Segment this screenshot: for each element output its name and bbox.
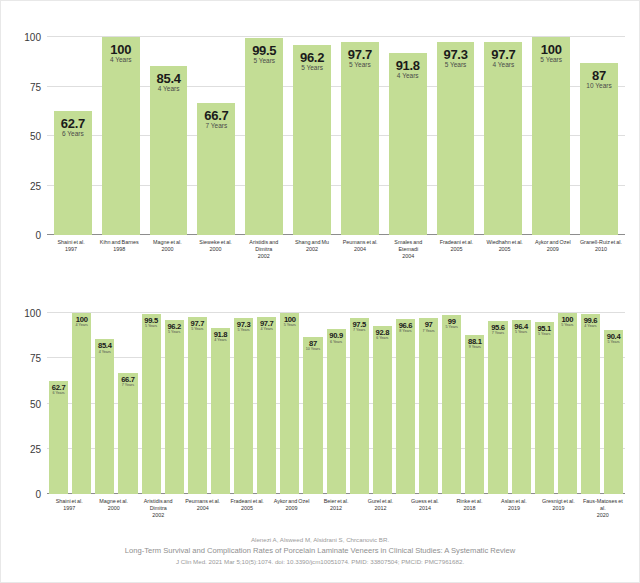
bar[interactable]: 1005 Years — [280, 313, 299, 494]
bar-slot: 91.84 Years — [384, 37, 432, 235]
bar-slot: 97.35 Years — [432, 37, 480, 235]
bar-data-label: 99.64 Years — [581, 317, 600, 329]
bar[interactable]: 62.76 Years — [49, 381, 68, 494]
bar[interactable]: 97.35 Years — [234, 318, 253, 494]
bar-followup-years: 4 Years — [72, 324, 91, 328]
bar-data-label: 96.25 Years — [293, 51, 331, 72]
bar-slot: 1005 Years — [556, 313, 579, 494]
x-axis-label: Gurel et al.2012 — [358, 498, 402, 518]
bar-data-label: 977 Years — [419, 321, 438, 333]
bar-value: 97.3 — [437, 48, 475, 61]
bar[interactable]: 85.44 Years — [95, 339, 114, 494]
bar[interactable]: 95.67 Years — [488, 321, 507, 494]
bar-followup-years: 5 Years — [341, 62, 379, 69]
bar[interactable]: 995 Years — [442, 315, 461, 494]
x-axis-label-study: Peumans et al. — [181, 498, 223, 505]
bar[interactable]: 96.25 Years — [293, 45, 331, 235]
x-axis-label: Beier et al.2012 — [314, 498, 358, 518]
x-axis-label-study: Sieweke et al. — [194, 239, 238, 246]
bar[interactable]: 8710 Years — [303, 337, 322, 494]
bar[interactable]: 85.44 Years — [150, 66, 188, 235]
bar-slot: 995 Years — [440, 313, 463, 494]
x-axis-label-study: Aslan et al. — [493, 498, 535, 505]
bar-slot: 92.86 Years — [371, 313, 394, 494]
bar-data-label: 97.57 Years — [350, 321, 369, 333]
bar[interactable]: 91.84 Years — [389, 53, 427, 235]
bar[interactable]: 99.64 Years — [581, 314, 600, 494]
bar-data-label: 66.77 Years — [118, 376, 137, 388]
bar[interactable]: 92.86 Years — [373, 326, 392, 494]
bar-value: 91.8 — [211, 331, 230, 339]
bar[interactable]: 97.75 Years — [188, 317, 207, 494]
bar[interactable]: 97.74 Years — [257, 317, 276, 494]
x-axis-label-study: Fradeani et al. — [434, 239, 478, 246]
x-axis-label-study: Magne et al. — [145, 239, 189, 246]
bar[interactable]: 97.75 Years — [341, 42, 379, 235]
bar[interactable]: 66.77 Years — [197, 103, 235, 235]
bar-followup-years: 4 Years — [257, 328, 276, 332]
bar[interactable]: 1004 Years — [72, 313, 91, 494]
bar[interactable]: 91.84 Years — [211, 328, 230, 494]
bar-followup-years: 6 Years — [327, 341, 346, 345]
bar-data-label: 1005 Years — [532, 43, 570, 64]
bar-slot: 96.25 Years — [163, 313, 186, 494]
bar-followup-years: 5 Years — [234, 329, 253, 333]
bar-slot: 99.55 Years — [140, 313, 163, 494]
bar-data-label: 99.55 Years — [142, 317, 161, 329]
bar[interactable]: 1005 Years — [532, 37, 570, 235]
bar-data-label: 88.19 Years — [465, 338, 484, 350]
bar-followup-years: 5 Years — [165, 331, 184, 335]
survival-rate-bar-chart-top: 0255075100 62.76 Years1004 Years85.44 Ye… — [47, 37, 625, 235]
bar[interactable]: 90.45 Years — [604, 330, 623, 494]
bar-value: 97 — [419, 321, 438, 329]
bar[interactable]: 1004 Years — [102, 37, 140, 235]
bar-value: 100 — [558, 316, 577, 324]
x-axis-label: Granell-Ruiz et al.2010 — [577, 239, 625, 259]
x-axis-label: Gresnigt et al.2019 — [536, 498, 580, 518]
bar[interactable]: 97.74 Years — [484, 42, 522, 235]
bar-followup-years: 8 Years — [396, 330, 415, 334]
y-tick-label: 0 — [35, 230, 47, 241]
x-axis-label-year: 2000 — [145, 246, 189, 253]
bar[interactable]: 62.76 Years — [54, 111, 92, 235]
bar-followup-years: 7 Years — [197, 123, 235, 130]
bar-data-label: 96.68 Years — [396, 322, 415, 334]
bar[interactable]: 99.55 Years — [142, 314, 161, 494]
bar-value: 99.5 — [245, 44, 283, 57]
bar[interactable]: 96.68 Years — [396, 319, 415, 494]
bar[interactable]: 1005 Years — [558, 313, 577, 494]
bar-slot: 1004 Years — [70, 313, 93, 494]
x-axis-label-year: 1998 — [97, 246, 141, 253]
y-tick-label: 75 — [30, 353, 47, 364]
bar[interactable]: 97.57 Years — [350, 318, 369, 494]
bar[interactable]: 90.96 Years — [327, 329, 346, 494]
x-axis-label-study: Kihn and Barnes — [97, 239, 141, 246]
bar[interactable]: 95.15 Years — [535, 322, 554, 494]
bar-followup-years: 7 Years — [118, 384, 137, 388]
bar-value: 100 — [102, 43, 140, 56]
bar[interactable]: 96.25 Years — [165, 320, 184, 494]
bar[interactable]: 99.55 Years — [245, 38, 283, 235]
x-axis-label-year: 2019 — [493, 505, 535, 512]
x-axis-label-study: Granell-Ruiz et al. — [579, 239, 623, 246]
bar-slot: 85.44 Years — [93, 313, 116, 494]
bar-followup-years: 5 Years — [558, 324, 577, 328]
bar-value: 100 — [532, 43, 570, 56]
bar[interactable]: 97.35 Years — [437, 42, 475, 235]
bar-data-label: 1004 Years — [102, 43, 140, 64]
x-axis-label-year: 2004 — [386, 253, 430, 260]
bar[interactable]: 977 Years — [419, 318, 438, 494]
bar[interactable]: 96.45 Years — [512, 320, 531, 494]
bar-slot: 85.44 Years — [145, 37, 193, 235]
plot-area-chart1: 0255075100 62.76 Years1004 Years85.44 Ye… — [47, 37, 625, 235]
bar-followup-years: 4 Years — [95, 351, 114, 355]
bar-data-label: 85.44 Years — [150, 72, 188, 93]
bar[interactable]: 88.19 Years — [465, 335, 484, 494]
bar[interactable]: 66.77 Years — [118, 373, 137, 494]
caption-authors: Alenezi A, Alsweed M, Alsidrani S, Chrca… — [1, 535, 639, 545]
bar-followup-years: 4 Years — [211, 339, 230, 343]
bar[interactable]: 8710 Years — [580, 63, 618, 235]
x-axis-label-study: Aristidis and Dimitra — [242, 239, 286, 253]
bar-followup-years: 7 Years — [350, 329, 369, 333]
bar-slot: 91.84 Years — [209, 313, 232, 494]
